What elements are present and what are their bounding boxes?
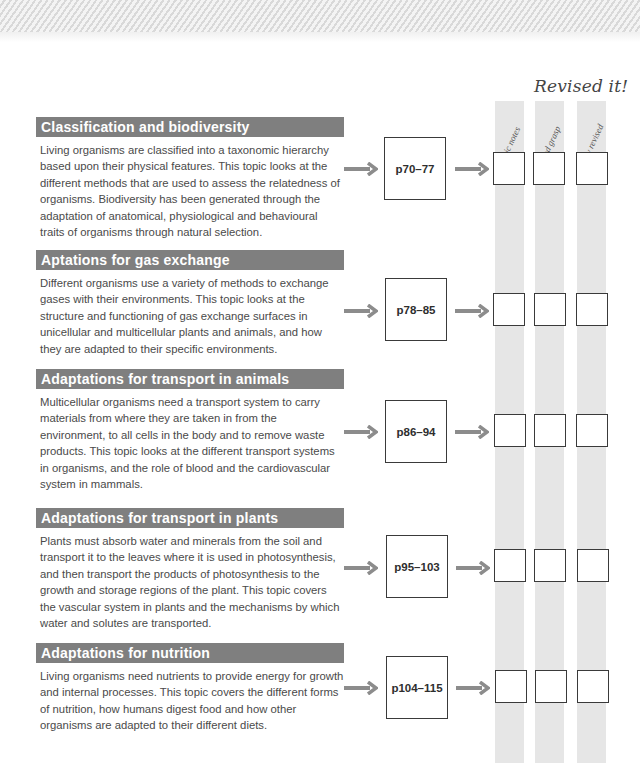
section-description: Living organisms are classified into a t…: [40, 142, 345, 240]
arrow-right-icon: [455, 424, 489, 440]
page-reference-box: p78–85: [385, 278, 447, 341]
checkbox-good-grasp[interactable]: [534, 549, 566, 582]
page-reference-box: p86–94: [385, 400, 447, 463]
checkbox-fully-revised[interactable]: [577, 670, 609, 703]
arrow-right-icon: [344, 303, 378, 319]
section-description: Plants must absorb water and minerals fr…: [40, 533, 345, 631]
section-title: Aptations for gas exchange: [36, 250, 344, 270]
checkbox-basic-notes[interactable]: [495, 670, 527, 703]
arrow-right-icon: [344, 680, 378, 696]
checkbox-fully-revised[interactable]: [576, 414, 608, 447]
arrow-right-icon: [344, 560, 378, 576]
arrow-right-icon: [455, 303, 489, 319]
revised-it-heading: Revised it!: [534, 76, 634, 96]
arrow-right-icon: [456, 560, 490, 576]
checkbox-fully-revised[interactable]: [577, 549, 609, 582]
topic-section: Aptations for gas exchange Different org…: [36, 250, 640, 270]
arrow-right-icon: [456, 680, 490, 696]
section-description: Living organisms need nutrients to provi…: [40, 668, 345, 734]
topic-section: Classification and biodiversity Living o…: [36, 117, 640, 137]
checkbox-good-grasp[interactable]: [533, 152, 565, 185]
arrow-right-icon: [344, 161, 378, 177]
section-title: Adaptations for transport in plants: [36, 508, 344, 528]
checkbox-good-grasp[interactable]: [534, 414, 566, 447]
checkbox-fully-revised[interactable]: [576, 152, 608, 185]
checkbox-basic-notes[interactable]: [494, 549, 526, 582]
checkbox-basic-notes[interactable]: [493, 152, 525, 185]
checkbox-basic-notes[interactable]: [494, 414, 526, 447]
topic-section: Adaptations for transport in plants Plan…: [36, 508, 640, 528]
checkbox-good-grasp[interactable]: [535, 670, 567, 703]
topic-section: Adaptations for transport in animals Mul…: [36, 369, 640, 389]
page-reference-box: p104–115: [386, 656, 448, 719]
section-title: Classification and biodiversity: [36, 117, 344, 137]
arrow-right-icon: [344, 424, 378, 440]
section-description: Multicellular organisms need a transport…: [40, 394, 345, 492]
checkbox-good-grasp[interactable]: [534, 293, 566, 326]
section-title: Adaptations for nutrition: [36, 643, 344, 663]
topic-section: Adaptations for nutrition Living organis…: [36, 643, 640, 663]
hatched-banner: [0, 0, 640, 36]
page-reference-box: p70–77: [384, 137, 446, 200]
section-title: Adaptations for transport in animals: [36, 369, 344, 389]
checkbox-basic-notes[interactable]: [493, 293, 525, 326]
section-description: Different organisms use a variety of met…: [40, 275, 345, 357]
arrow-right-icon: [455, 161, 489, 177]
checkbox-fully-revised[interactable]: [576, 293, 608, 326]
page-reference-box: p95–103: [386, 535, 448, 598]
